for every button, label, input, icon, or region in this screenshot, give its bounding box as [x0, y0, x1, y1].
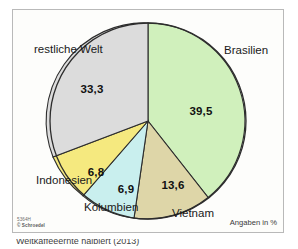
pie-label-kolumbien: Kolumbien	[84, 201, 138, 213]
pie-value-restliche-welt: 33,3	[81, 83, 104, 95]
pie-chart-figure: 39,5 13,6 6,9 6,8 33,3 Brasilien Vietnam…	[0, 0, 298, 249]
credit-owner: © Schroedel	[17, 223, 45, 228]
chart-stage: 39,5 13,6 6,9 6,8 33,3 Brasilien Vietnam…	[12, 9, 284, 233]
pie-label-restliche-welt: restliche Welt	[34, 43, 103, 55]
units-note: Angaben in %	[230, 218, 277, 227]
pie-value-kolumbien: 6,9	[118, 183, 134, 195]
credit-block: 5364H © Schroedel	[17, 217, 45, 228]
pie-value-brasilien: 39,5	[190, 105, 213, 117]
caption-clipped: Weltkaffeeernte halbiert (2013)	[16, 239, 282, 249]
pie-label-indonesien: Indonesien	[36, 174, 92, 186]
caption-clipped-text: Weltkaffeeernte halbiert (2013)	[16, 239, 282, 246]
pie-value-vietnam: 13,6	[162, 179, 185, 191]
pie-label-brasilien: Brasilien	[224, 44, 268, 56]
pie-label-vietnam: Vietnam	[172, 207, 214, 219]
